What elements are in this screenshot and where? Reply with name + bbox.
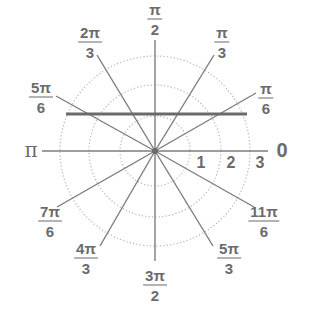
label-angle-11pi-over-6: 11π 6: [248, 204, 279, 239]
label-angle-5pi-over-3: 5π 3: [217, 241, 241, 276]
label-angle-pi-over-6: π 6: [258, 81, 273, 116]
label-angle-2pi-over-3: 2π 3: [78, 25, 102, 60]
label-angle-0: 0: [276, 140, 287, 160]
ray-pi-over-3: [155, 55, 214, 151]
label-radius-3: 3: [256, 155, 265, 171]
label-angle-pi-over-3: π 3: [214, 25, 229, 60]
ray-4pi-over-3: [100, 151, 155, 246]
ray-7pi-over-6: [57, 151, 155, 207]
label-angle-5pi-over-6: 5π 6: [29, 80, 53, 115]
label-angle-7pi-over-6: 7π 6: [38, 204, 62, 239]
ray-2pi-over-3: [97, 55, 155, 151]
label-angle-4pi-over-3: 4π 3: [74, 241, 98, 276]
label-angle-3pi-over-2: 3π 2: [143, 268, 167, 303]
ray-pi-over-6: [155, 93, 256, 151]
label-radius-2: 2: [227, 155, 236, 171]
label-angle-pi-over-2: π 2: [147, 2, 162, 37]
origin-point: [152, 148, 158, 154]
ray-5pi-over-6: [56, 96, 155, 151]
label-radius-1: 1: [197, 155, 206, 171]
label-angle-pi: π: [24, 140, 37, 160]
